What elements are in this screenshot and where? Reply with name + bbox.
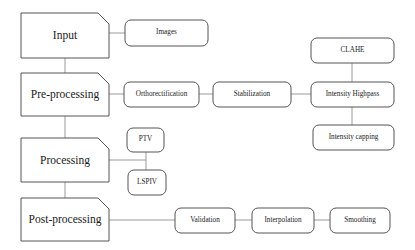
sub-node-interpolation[interactable] — [252, 208, 314, 233]
sub-node-images[interactable] — [125, 20, 208, 46]
stage-node-input[interactable] — [21, 13, 109, 58]
connector-group — [65, 33, 352, 220]
sub-node-intensity-capping[interactable] — [313, 125, 394, 150]
sub-node-ptv[interactable] — [127, 128, 164, 152]
sub-node-intensity-highpass[interactable] — [311, 82, 394, 107]
stage-node-post-processing[interactable] — [21, 198, 109, 241]
sub-node-lspiv[interactable] — [128, 170, 166, 195]
sub-node-stabilization[interactable] — [213, 82, 291, 107]
flowchart-canvas — [0, 0, 415, 250]
sub-node-validation[interactable] — [175, 208, 235, 233]
sub-node-clahe[interactable] — [311, 38, 394, 63]
stage-node-pre-processing[interactable] — [21, 73, 109, 116]
sub-shape-group — [124, 20, 394, 233]
flowchart-diagram: InputPre-processingProcessingPost-proces… — [0, 0, 415, 250]
sub-node-orthorectification[interactable] — [124, 82, 199, 107]
stage-node-processing[interactable] — [21, 138, 109, 182]
sub-node-smoothing[interactable] — [330, 208, 390, 233]
